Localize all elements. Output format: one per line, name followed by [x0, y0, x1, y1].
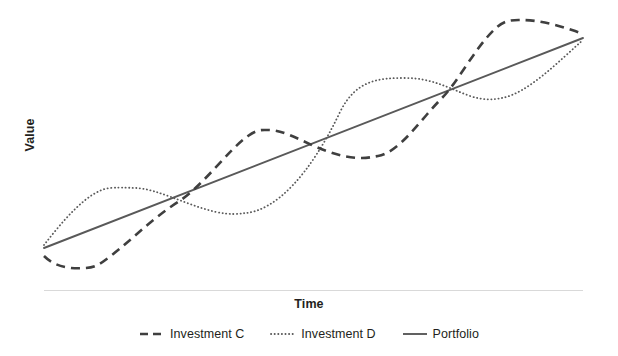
legend-swatch-dotted-icon — [270, 328, 296, 340]
y-axis-title: Value — [23, 100, 37, 170]
legend-label-portfolio: Portfolio — [433, 327, 479, 341]
x-axis-title: Time — [0, 297, 618, 311]
legend-swatch-solid-icon — [402, 328, 428, 340]
legend-swatch-dashed-icon — [139, 328, 165, 340]
series-line-portfolio — [44, 38, 583, 248]
legend-item-investment-d[interactable]: Investment D — [270, 327, 375, 341]
series-line-investment-c — [44, 20, 583, 268]
legend-item-investment-c[interactable]: Investment C — [139, 327, 244, 341]
legend-item-portfolio[interactable]: Portfolio — [402, 327, 479, 341]
legend-label-investment-d: Investment D — [301, 327, 375, 341]
line-chart: Value Time Investment C Investment D Por… — [0, 0, 618, 356]
chart-legend: Investment C Investment D Portfolio — [0, 327, 618, 341]
legend-label-investment-c: Investment C — [170, 327, 244, 341]
